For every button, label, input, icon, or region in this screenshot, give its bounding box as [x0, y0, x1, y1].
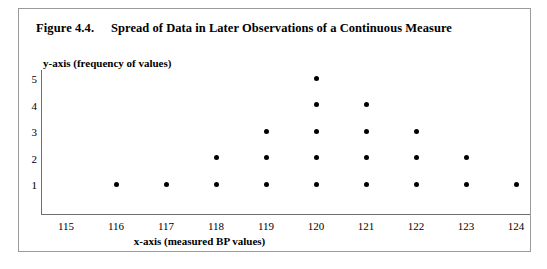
figure-title-text: Spread of Data in Later Observations of … — [111, 21, 452, 36]
figure-frame: Figure 4.4. Spread of Data in Later Obse… — [18, 8, 531, 252]
x-axis-title-text: x-axis (measured BP values) — [134, 235, 266, 247]
figure-number: Figure 4.4. — [36, 21, 94, 36]
figure-title: Figure 4.4. Spread of Data in Later Obse… — [19, 21, 530, 39]
x-axis-title: x-axis (measured BP values) — [0, 235, 547, 247]
y-axis-title: y-axis (frequency of values) — [43, 57, 171, 69]
